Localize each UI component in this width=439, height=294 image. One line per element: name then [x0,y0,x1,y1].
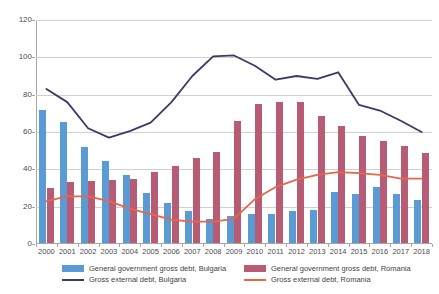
y-tick-label: 80 [2,91,32,99]
x-tick-mark [349,244,350,247]
legend-item[interactable]: Gross external debt, Bulgaria [62,274,186,285]
legend-label: General government gross debt, Bulgaria [89,264,226,273]
x-tick-mark [390,244,391,247]
x-tick-label: 2015 [349,247,370,257]
x-tick-label: 2010 [244,247,265,257]
y-tick-label: 60 [2,128,32,136]
legend-line-swatch [62,276,84,283]
x-axis: 2000200120022003200420052006200720082009… [36,247,432,261]
x-tick-mark [286,244,287,247]
y-tick-mark [32,20,35,21]
legend-item[interactable]: Gross external debt, Romania [244,274,371,285]
x-tick-label: 2017 [390,247,411,257]
x-tick-mark [369,244,370,247]
x-tick-mark [328,244,329,247]
lines-layer [36,20,432,244]
x-tick-mark [265,244,266,247]
x-tick-label: 2001 [57,247,78,257]
x-tick-label: 2005 [140,247,161,257]
legend-line-stroke [244,279,266,281]
x-tick-label: 2009 [224,247,245,257]
line-series [46,172,421,221]
legend-label: Gross external debt, Bulgaria [89,275,186,284]
x-tick-mark [224,244,225,247]
x-tick-mark [161,244,162,247]
x-tick-mark [119,244,120,247]
x-tick-label: 2003 [99,247,120,257]
x-tick-label: 2013 [307,247,328,257]
chart-legend: General government gross debt, BulgariaG… [62,263,402,287]
x-tick-mark [99,244,100,247]
y-tick-mark [32,132,35,133]
y-tick-label: 120 [2,16,32,24]
y-axis: 020406080100120 [0,20,32,244]
y-tick-label: 20 [2,203,32,211]
x-tick-mark [203,244,204,247]
x-tick-mark [411,244,412,247]
y-tick-mark [32,207,35,208]
x-tick-mark [57,244,58,247]
x-tick-label: 2011 [265,247,286,257]
x-tick-mark [432,244,433,247]
line-series [46,55,421,137]
x-tick-mark [78,244,79,247]
y-tick-label: 0 [2,240,32,248]
y-tick-mark [32,244,35,245]
x-tick-label: 2012 [286,247,307,257]
legend-label: General government gross debt, Romania [271,264,411,273]
x-tick-mark [140,244,141,247]
legend-item[interactable]: General government gross debt, Romania [244,263,411,274]
x-tick-label: 2007 [182,247,203,257]
y-tick-label: 100 [2,53,32,61]
y-tick-mark [32,169,35,170]
x-tick-label: 2014 [328,247,349,257]
x-tick-mark [36,244,37,247]
legend-bar-swatch [244,265,266,272]
x-tick-label: 2000 [36,247,57,257]
legend-line-stroke [62,279,84,281]
legend-bar-swatch [62,265,84,272]
x-tick-mark [244,244,245,247]
legend-label: Gross external debt, Romania [271,275,371,284]
y-tick-label: 40 [2,165,32,173]
x-tick-mark [182,244,183,247]
x-tick-mark [307,244,308,247]
x-tick-label: 2002 [78,247,99,257]
legend-item[interactable]: General government gross debt, Bulgaria [62,263,226,274]
y-tick-mark [32,57,35,58]
x-tick-label: 2018 [411,247,432,257]
x-tick-label: 2006 [161,247,182,257]
x-tick-label: 2004 [119,247,140,257]
y-tick-mark [32,95,35,96]
chart-container: 020406080100120 200020012002200320042005… [0,0,439,294]
x-tick-label: 2016 [369,247,390,257]
x-tick-label: 2008 [203,247,224,257]
plot-area [36,20,432,244]
legend-line-swatch [244,276,266,283]
